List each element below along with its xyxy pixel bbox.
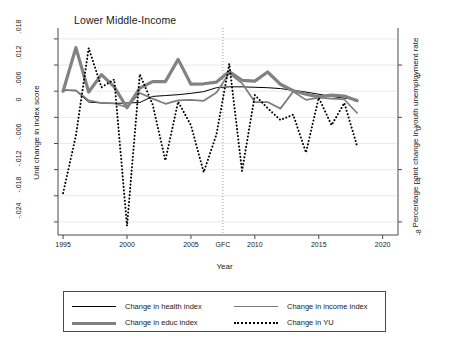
gridlines bbox=[58, 39, 398, 222]
legend-item-health: Change in health index bbox=[72, 299, 202, 313]
legend-item-yu: Change in YU bbox=[234, 315, 334, 329]
legend-item-income: Change in income index bbox=[234, 299, 367, 313]
x-tick-label: 2020 bbox=[363, 241, 403, 248]
legend-label-income: Change in income index bbox=[287, 302, 367, 311]
legend-line-income-icon bbox=[234, 301, 278, 311]
x-tick-label: 1995 bbox=[43, 241, 83, 248]
chart-legend: Change in health index Change in income … bbox=[63, 291, 386, 332]
axis-ticks bbox=[54, 39, 402, 239]
y-tick-label-right: -8 bbox=[415, 205, 422, 235]
y-tick-label-left: -.024 bbox=[15, 202, 22, 238]
y-tick-label-right: 0 bbox=[415, 101, 422, 131]
y-tick-label-right: 4 bbox=[415, 49, 422, 79]
axis-lines bbox=[58, 28, 398, 235]
legend-item-educ: Change in educ index bbox=[72, 315, 198, 329]
chart-figure: Lower Middle-Income Unit change in index… bbox=[0, 0, 449, 345]
x-tick-label: 2010 bbox=[235, 241, 275, 248]
legend-line-health-icon bbox=[72, 301, 116, 311]
y-tick-label-right: -4 bbox=[415, 153, 422, 183]
legend-label-yu: Change in YU bbox=[287, 318, 334, 327]
series-line-change-in-yu bbox=[63, 48, 357, 226]
x-tick-label: 2015 bbox=[299, 241, 339, 248]
legend-label-educ: Change in educ index bbox=[125, 318, 198, 327]
x-tick-label: 2000 bbox=[107, 241, 147, 248]
legend-label-health: Change in health index bbox=[125, 302, 202, 311]
series-lines bbox=[63, 48, 357, 226]
legend-line-yu-icon bbox=[234, 317, 278, 327]
legend-line-educ-icon bbox=[72, 317, 116, 327]
